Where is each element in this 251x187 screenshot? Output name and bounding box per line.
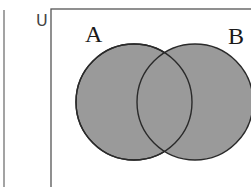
set-b-circle [137,44,251,160]
set-b-label: B [228,23,244,49]
set-a-label: A [85,21,103,47]
venn-diagram: U A B [0,0,251,187]
universe-label: U [36,11,48,30]
